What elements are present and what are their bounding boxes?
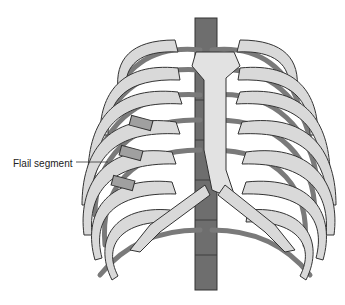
flail-segment-label: Flail segment	[13, 158, 72, 169]
anterior-ribs-left	[82, 40, 182, 280]
rib-cage-illustration	[0, 0, 345, 305]
